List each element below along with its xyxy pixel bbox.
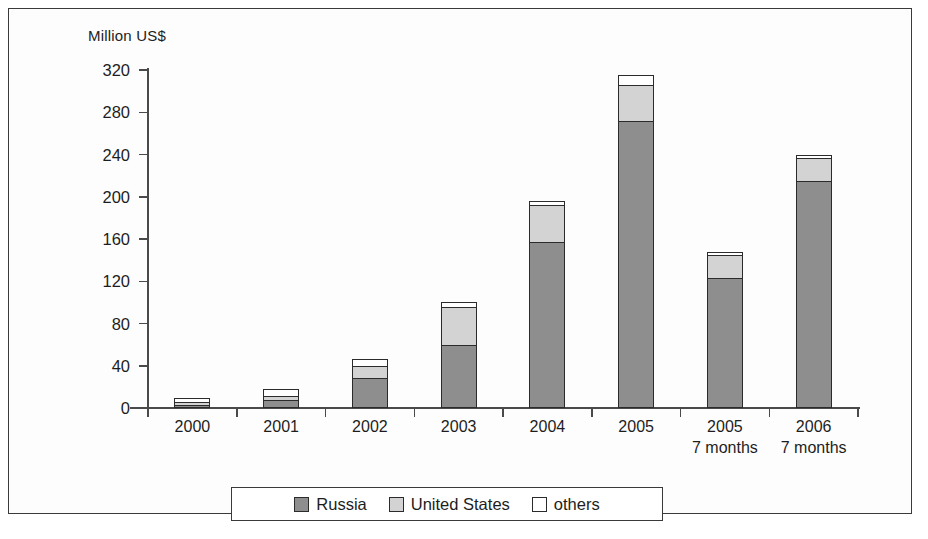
- x-axis-tick-label: 20067 months: [781, 418, 847, 457]
- x-axis-tick: [502, 408, 504, 417]
- legend-label: others: [554, 495, 600, 514]
- x-axis-tick: [857, 408, 859, 417]
- legend-item-others[interactable]: others: [532, 495, 600, 514]
- bar-segment-united-states[interactable]: [441, 307, 477, 345]
- x-axis-label-year: 2005: [692, 418, 758, 436]
- legend-item-united-states[interactable]: United States: [389, 495, 510, 514]
- bar-group[interactable]: [618, 75, 654, 408]
- y-axis-tick: [139, 281, 148, 283]
- bar-segment-united-states[interactable]: [352, 366, 388, 379]
- legend-swatch-icon: [294, 497, 309, 512]
- bar-group[interactable]: [707, 252, 743, 408]
- y-axis-tick-label: 80: [78, 314, 130, 333]
- bar-segment-russia[interactable]: [263, 400, 299, 408]
- y-axis-tick-label: 280: [78, 103, 130, 122]
- x-axis-tick: [236, 408, 238, 417]
- x-axis-tick-label: 2002: [352, 418, 388, 436]
- bar-group[interactable]: [796, 155, 832, 408]
- x-axis-label-year: 2000: [175, 418, 211, 436]
- bar-segment-russia[interactable]: [618, 121, 654, 408]
- legend-swatch-icon: [389, 497, 404, 512]
- bar-segment-united-states[interactable]: [618, 85, 654, 121]
- x-axis-label-year: 2001: [263, 418, 299, 436]
- bar-segment-russia[interactable]: [529, 242, 565, 408]
- bar-segment-russia[interactable]: [441, 345, 477, 408]
- bar-group[interactable]: [529, 201, 565, 408]
- plot-area: [148, 62, 860, 408]
- y-axis-tick-label: 160: [78, 230, 130, 249]
- bar-segment-united-states[interactable]: [707, 255, 743, 278]
- x-axis-tick-label: 2000: [175, 418, 211, 436]
- legend-swatch-icon: [532, 497, 547, 512]
- x-axis-label-year: 2004: [530, 418, 566, 436]
- x-axis-label-year: 2005: [618, 418, 654, 436]
- y-axis-tick-label: 320: [78, 61, 130, 80]
- x-axis-tick-label: 2005: [618, 418, 654, 436]
- x-axis-tick: [591, 408, 593, 417]
- legend-item-russia[interactable]: Russia: [294, 495, 366, 514]
- bar-segment-united-states[interactable]: [529, 205, 565, 242]
- x-axis-label-year: 2003: [441, 418, 477, 436]
- y-axis-tick: [139, 196, 148, 198]
- x-axis-tick-label: 2001: [263, 418, 299, 436]
- bar-group[interactable]: [263, 389, 299, 408]
- chart-legend: RussiaUnited Statesothers: [231, 487, 663, 521]
- y-axis-tick: [133, 407, 148, 409]
- y-axis-tick-label: 240: [78, 145, 130, 164]
- y-axis-tick: [139, 238, 148, 240]
- x-axis-tick: [680, 408, 682, 417]
- x-axis-label-period: 7 months: [692, 439, 758, 457]
- x-axis-tick: [147, 408, 149, 417]
- x-axis-tick-label: 20057 months: [692, 418, 758, 457]
- x-axis-tick: [769, 408, 771, 417]
- bar-segment-others[interactable]: [618, 75, 654, 85]
- bar-segment-russia[interactable]: [174, 405, 210, 408]
- bar-group[interactable]: [352, 359, 388, 408]
- y-axis-tick-label: 40: [78, 356, 130, 375]
- bar-segment-united-states[interactable]: [796, 158, 832, 181]
- stacked-bar-chart: Million US$ 04080120160200240280320 2000…: [0, 0, 928, 539]
- x-axis-tick-label: 2004: [530, 418, 566, 436]
- y-axis-tick-labels: 04080120160200240280320: [78, 0, 130, 539]
- bar-segment-russia[interactable]: [352, 378, 388, 408]
- y-axis-tick: [139, 112, 148, 114]
- x-axis-label-year: 2002: [352, 418, 388, 436]
- legend-label: Russia: [316, 495, 366, 514]
- x-axis-tick: [325, 408, 327, 417]
- bar-segment-russia[interactable]: [707, 278, 743, 408]
- y-axis-tick-label: 0: [78, 399, 130, 418]
- y-axis-tick: [139, 365, 148, 367]
- x-axis-tick-label: 2003: [441, 418, 477, 436]
- y-axis-tick-label: 120: [78, 272, 130, 291]
- legend-label: United States: [411, 495, 510, 514]
- y-axis-tick: [139, 323, 148, 325]
- x-axis-tick: [414, 408, 416, 417]
- y-axis-tick: [139, 154, 148, 156]
- bar-segment-russia[interactable]: [796, 181, 832, 408]
- bar-group[interactable]: [441, 302, 477, 408]
- y-axis-tick: [139, 69, 148, 71]
- x-axis-label-year: 2006: [781, 418, 847, 436]
- y-axis-tick-label: 200: [78, 187, 130, 206]
- bar-segment-others[interactable]: [263, 389, 299, 396]
- bar-group[interactable]: [174, 398, 210, 408]
- x-axis-label-period: 7 months: [781, 439, 847, 457]
